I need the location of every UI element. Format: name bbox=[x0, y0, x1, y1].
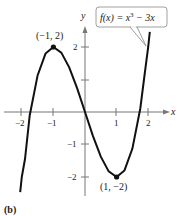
function-callout: f(x) = x3 − 3x bbox=[96, 7, 167, 46]
callout-label: f(x) = x3 − 3x bbox=[100, 11, 155, 24]
y-tick-label: −2 bbox=[67, 172, 77, 182]
x-tick-label: −2 bbox=[15, 118, 25, 128]
x-tick-label: 2 bbox=[146, 118, 151, 128]
max-point-marker bbox=[51, 44, 56, 49]
x-axis bbox=[4, 110, 170, 115]
y-axis-label: y bbox=[80, 10, 86, 21]
figure-label: (b) bbox=[4, 204, 16, 216]
x-tick-label: 1 bbox=[114, 118, 119, 128]
x-axis-label: x bbox=[170, 106, 176, 117]
y-axis-arrow-icon bbox=[83, 26, 88, 33]
x-tick-label: −1 bbox=[47, 118, 57, 128]
y-tick-label: 2 bbox=[73, 42, 78, 52]
max-point-label: (−1, 2) bbox=[36, 30, 63, 42]
x-axis-arrow-icon bbox=[163, 110, 170, 115]
min-point-marker bbox=[114, 174, 119, 179]
function-graph: −2 −1 1 2 2 −1 −2 x y (−1, 2) (1, −2) f(… bbox=[0, 0, 178, 216]
min-point-label: (1, −2) bbox=[100, 181, 127, 193]
y-tick-label: −1 bbox=[67, 139, 77, 149]
